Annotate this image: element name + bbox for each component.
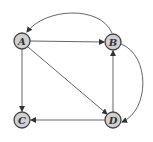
- edge-a-d: [28, 47, 107, 114]
- node-d: D: [105, 112, 121, 128]
- node-label: D: [108, 115, 118, 126]
- node-a: A: [14, 33, 30, 49]
- node-label: C: [18, 115, 26, 126]
- edge-a-b: [30, 41, 104, 42]
- graph-diagram: A B C D: [0, 0, 153, 142]
- node-label: A: [17, 36, 26, 47]
- node-b: B: [105, 34, 121, 50]
- node-label: B: [108, 37, 117, 48]
- edge-b-a: [27, 13, 112, 33]
- node-c: C: [14, 112, 30, 128]
- edge-b-d: [121, 44, 143, 122]
